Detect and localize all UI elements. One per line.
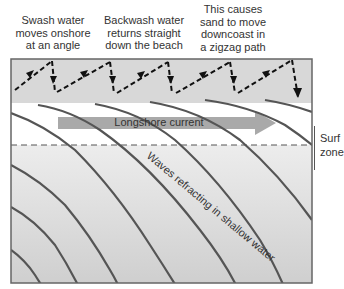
- longshore-current-label: Longshore current: [114, 116, 203, 128]
- surf-zone-label-line: zone: [320, 145, 344, 159]
- surf-zone-bracket: [314, 126, 315, 170]
- surf-zone-label-line: Surf: [320, 131, 344, 145]
- surf-zone-label: Surf zone: [320, 131, 344, 159]
